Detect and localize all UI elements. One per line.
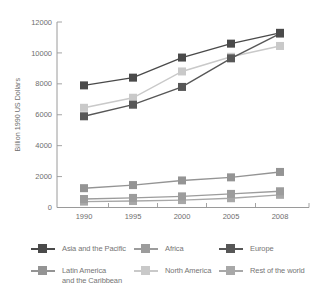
legend-label: Asia and the Pacific — [62, 244, 126, 254]
legend-marker-latin-america-and-the-caribbean — [31, 266, 55, 276]
chart-legend: Asia and the PacificAfricaEuropeLatin Am… — [0, 0, 327, 299]
legend-label: Latin America and the Caribbean — [62, 266, 122, 286]
legend-item-asia-and-the-pacific: Asia and the Pacific — [31, 244, 126, 254]
legend-item-north-america: North America — [134, 266, 211, 276]
legend-marker-europe — [219, 244, 243, 254]
legend-marker-rest-of-the-world — [219, 266, 243, 276]
legend-label: Africa — [165, 244, 184, 254]
legend-item-africa: Africa — [134, 244, 184, 254]
legend-item-latin-america-and-the-caribbean: Latin America and the Caribbean — [31, 266, 122, 286]
chart-figure: 0200040006000800010000120001990199520002… — [0, 0, 327, 299]
legend-item-rest-of-the-world: Rest of the world — [219, 266, 305, 276]
legend-marker-north-america — [134, 266, 158, 276]
legend-marker-asia-and-the-pacific — [31, 244, 55, 254]
legend-marker-africa — [134, 244, 158, 254]
legend-label: North America — [165, 266, 211, 276]
legend-label: Europe — [250, 244, 274, 254]
legend-label: Rest of the world — [250, 266, 305, 276]
legend-item-europe: Europe — [219, 244, 274, 254]
